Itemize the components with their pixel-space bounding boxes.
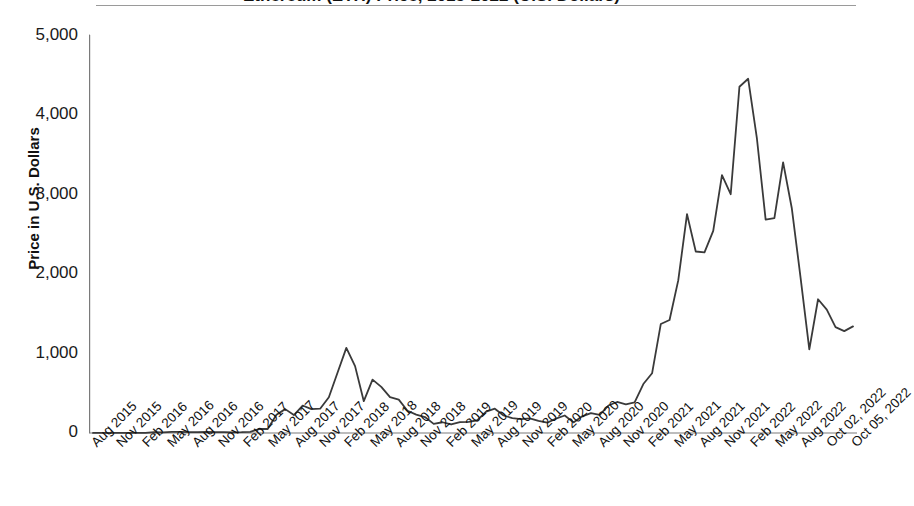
axis-lines [90,35,858,433]
y-tick-4000: 4,000 [35,105,78,122]
eth-price-line [93,79,853,433]
plot-area [89,30,857,438]
y-tick-3000: 3,000 [35,185,78,202]
y-tick-2000: 2,000 [35,264,78,281]
x-axis-tick-labels: Aug 2015Nov 2015Feb 2016May 2016Aug 2016… [0,438,863,506]
y-tick-1000: 1,000 [35,344,78,361]
y-tick-5000: 5,000 [35,26,78,43]
y-axis-tick-labels: 5,000 4,000 3,000 2,000 1,000 0 [0,0,78,506]
title-divider [96,5,856,6]
price-line-plot [89,30,857,438]
